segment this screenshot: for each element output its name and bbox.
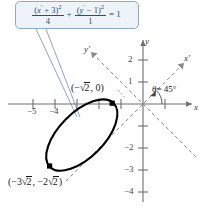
upper-sqrt: √2: [80, 82, 91, 94]
point-label-upper: (−√2, 0): [71, 82, 104, 94]
point-marker-lower: [47, 163, 52, 168]
term1-exponent: 2: [58, 3, 61, 10]
y-tick-label-minus3: −3: [124, 164, 134, 174]
y-tick-label-minus2: −2: [124, 142, 134, 152]
upper-open: (−: [71, 82, 80, 93]
equation-term-2: (y′ − 1)2 1: [75, 4, 106, 26]
equation-callout: (x′ + 3)2 4 + (y′ − 1)2 1 = 1: [15, 1, 139, 29]
y-prime-axis-arrow: [91, 52, 98, 59]
lower-sqrt-1: √2: [22, 176, 33, 188]
lower-sqrt-2: √2: [48, 176, 59, 188]
upper-close: , 0): [90, 82, 103, 93]
equation-plus: +: [67, 10, 72, 19]
y-tick-label-1: 1: [128, 76, 133, 86]
x-tick-label-minus4: −4: [49, 106, 59, 116]
equation-content: (x′ + 3)2 4 + (y′ − 1)2 1 = 1: [31, 4, 123, 26]
upper-point-leader: [118, 90, 126, 99]
x-prime-axis-label: x′: [184, 53, 190, 63]
theta-angle-label: θ= 45°: [152, 84, 176, 94]
x-axis-arrow: [186, 101, 192, 106]
equation-equals: = 1: [109, 10, 121, 19]
term1-denominator: 4: [46, 16, 50, 26]
equation-term-1: (x′ + 3)2 4: [32, 4, 63, 26]
y-tick-label-2: 2: [128, 54, 133, 64]
x-axis-label: x: [194, 102, 198, 112]
point-label-lower: (−3√2, −2√2): [8, 176, 62, 188]
lower-middle: , −2: [32, 176, 48, 187]
point-marker-upper: [110, 101, 115, 106]
term2-numerator: (y′ − 1)2: [75, 4, 106, 16]
ellipse-rotation-figure: (x′ + 3)2 4 + (y′ − 1)2 1 = 1: [0, 0, 206, 215]
term2-exponent: 2: [101, 3, 104, 10]
term1-rest: + 3): [42, 5, 58, 15]
term1-numerator: (x′ + 3)2: [32, 4, 63, 16]
x-tick-label-minus5: −5: [27, 106, 37, 116]
theta-value: = 45°: [156, 84, 176, 94]
y-axis-label: y: [145, 36, 149, 46]
term2-rest: − 1): [85, 5, 101, 15]
lower-open: (−3: [8, 176, 22, 187]
term2-denominator: 1: [88, 16, 92, 26]
lower-close: ): [59, 176, 62, 187]
y-tick-label-minus4: −4: [124, 186, 134, 196]
y-prime-axis-label: y′: [84, 44, 90, 54]
